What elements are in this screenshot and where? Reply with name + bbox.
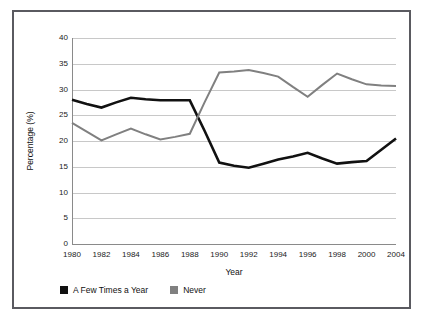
y-axis-tick-label: 30 bbox=[59, 86, 68, 94]
legend-item-label: Never bbox=[183, 285, 206, 295]
x-axis-tick-label: 2000 bbox=[358, 251, 376, 259]
y-axis-tick-label: 5 bbox=[64, 214, 68, 222]
x-axis-tick-label: 1992 bbox=[240, 251, 258, 259]
x-axis-tick-label: 2004 bbox=[387, 251, 405, 259]
series-line bbox=[72, 70, 396, 141]
x-axis-tick-label: 1996 bbox=[299, 251, 317, 259]
y-axis-title: Percentage (%) bbox=[25, 111, 35, 170]
legend-swatch-icon bbox=[60, 286, 68, 294]
y-axis-tick-label: 25 bbox=[59, 111, 68, 119]
x-axis-tick-label: 1986 bbox=[151, 251, 169, 259]
legend-item[interactable]: Never bbox=[170, 285, 206, 295]
y-axis-tick-label: 10 bbox=[59, 189, 68, 197]
series-layer bbox=[72, 38, 396, 244]
y-axis-tick-label: 40 bbox=[59, 34, 68, 42]
chart-legend: A Few Times a YearNever bbox=[60, 285, 206, 295]
x-axis-tick-label: 1984 bbox=[122, 251, 140, 259]
plot-area: 0510152025303540 19801982198419861988199… bbox=[72, 38, 396, 244]
chart-figure: Percentage (%) 0510152025303540 19801982… bbox=[12, 10, 411, 309]
x-axis-tick-label: 1998 bbox=[328, 251, 346, 259]
line-series-svg bbox=[72, 38, 396, 244]
legend-item-label: A Few Times a Year bbox=[73, 285, 148, 295]
x-axis-tick-label: 1988 bbox=[181, 251, 199, 259]
x-axis-tick-label: 1980 bbox=[63, 251, 81, 259]
legend-swatch-icon bbox=[170, 286, 178, 294]
legend-item[interactable]: A Few Times a Year bbox=[60, 285, 148, 295]
x-axis-title: Year bbox=[72, 267, 396, 277]
y-axis-tick-label: 0 bbox=[64, 240, 68, 248]
gridline bbox=[72, 244, 396, 245]
y-axis-tick-label: 15 bbox=[59, 163, 68, 171]
y-axis-tick-label: 35 bbox=[59, 60, 68, 68]
x-axis-tick-label: 1994 bbox=[269, 251, 287, 259]
y-axis-tick-label: 20 bbox=[59, 137, 68, 145]
x-axis-tick-label: 1990 bbox=[210, 251, 228, 259]
x-axis-tick-label: 1982 bbox=[93, 251, 111, 259]
